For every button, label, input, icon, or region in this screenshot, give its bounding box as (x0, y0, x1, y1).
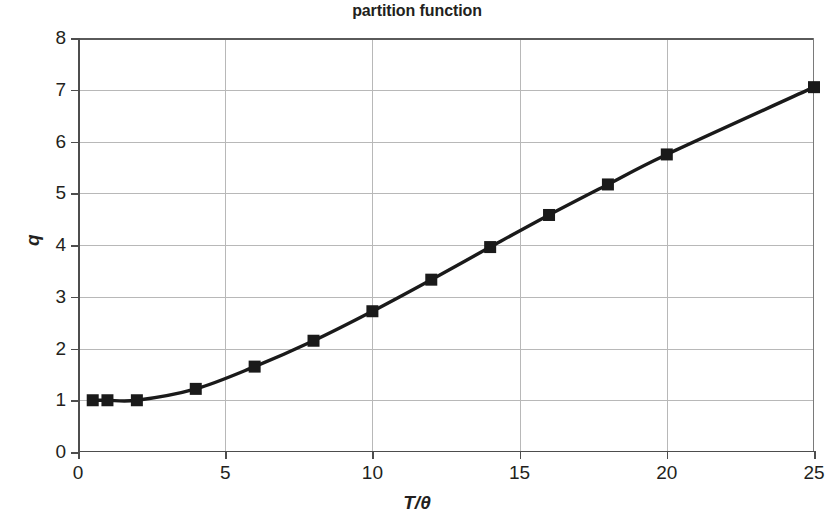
x-tick-label: 20 (656, 462, 677, 484)
x-tick-label: 5 (220, 462, 231, 484)
x-tick-mark (667, 451, 669, 459)
data-series (78, 38, 814, 452)
data-point-marker (661, 148, 673, 160)
y-tick-label: 7 (55, 79, 66, 101)
data-point-marker (808, 81, 820, 93)
y-tick-label: 4 (55, 234, 66, 256)
x-axis-title: T/θ (0, 492, 834, 514)
data-point-marker (308, 335, 320, 347)
x-tick-label: 15 (509, 462, 530, 484)
y-axis-title: q (22, 234, 44, 246)
y-tick-label: 0 (55, 441, 66, 463)
data-point-marker (425, 274, 437, 286)
x-tick-mark (520, 451, 522, 459)
chart-title: partition function (0, 2, 834, 20)
data-point-marker (543, 209, 555, 221)
x-tick-mark (372, 451, 374, 459)
data-point-marker (131, 394, 143, 406)
y-tick-label: 3 (55, 286, 66, 308)
y-tick-label: 1 (55, 389, 66, 411)
x-tick-mark (814, 451, 816, 459)
y-tick-label: 6 (55, 131, 66, 153)
x-tick-mark (78, 451, 80, 459)
x-tick-label: 0 (73, 462, 84, 484)
data-point-marker (366, 305, 378, 317)
data-point-marker (87, 394, 99, 406)
data-point-marker (101, 394, 113, 406)
plot-area: 0123456780510152025 (78, 38, 814, 452)
x-tick-label: 10 (362, 462, 383, 484)
data-point-marker (602, 178, 614, 190)
y-tick-label: 5 (55, 182, 66, 204)
y-tick-label: 2 (55, 338, 66, 360)
x-tick-label: 25 (803, 462, 824, 484)
series-line (93, 87, 814, 401)
x-tick-mark (225, 451, 227, 459)
data-point-marker (484, 241, 496, 253)
y-tick-label: 8 (55, 27, 66, 49)
data-point-marker (249, 361, 261, 373)
chart-figure: partition function q T/θ 012345678051015… (0, 0, 834, 524)
data-point-marker (190, 383, 202, 395)
